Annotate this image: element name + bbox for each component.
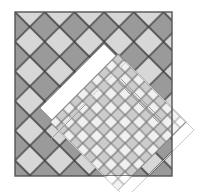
- geometric-figure: Argyle diamond lattice with rotated fine…: [0, 0, 208, 192]
- figure-root: Argyle diamond lattice with rotated fine…: [0, 0, 208, 192]
